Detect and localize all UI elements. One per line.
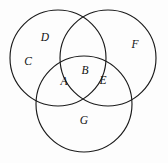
region-label-a: A xyxy=(60,76,67,88)
region-label-g: G xyxy=(80,115,88,127)
region-label-d: D xyxy=(41,32,49,44)
upper-right-circle xyxy=(60,10,156,106)
region-label-c: C xyxy=(24,56,32,68)
region-label-f: F xyxy=(131,39,138,51)
region-label-e: E xyxy=(99,75,106,87)
venn-diagram-figure: D C F B A E G xyxy=(0,0,168,163)
region-label-b: B xyxy=(81,65,88,77)
venn-circles-svg xyxy=(0,0,168,163)
